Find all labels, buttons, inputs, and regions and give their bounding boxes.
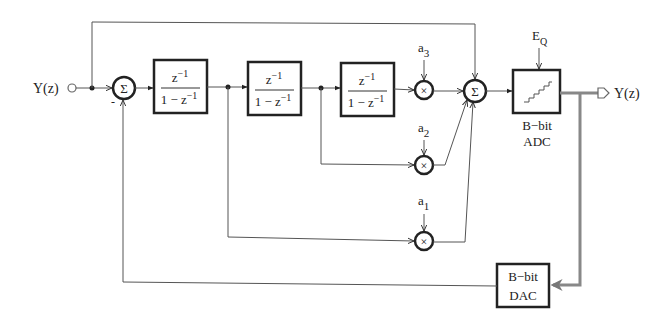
svg-text:DAC: DAC <box>509 288 536 303</box>
output-summing-node: Σ <box>464 80 486 102</box>
input-label: Y(z) <box>33 81 59 97</box>
svg-text:B−bit: B−bit <box>508 269 538 284</box>
coef-a3-label: a3 <box>418 40 430 59</box>
coef-a2-label: a2 <box>418 120 429 139</box>
coef-a1-label: a1 <box>418 193 429 212</box>
feedback-bus <box>553 93 580 285</box>
integrator-2: z−1 1 − z−1 <box>248 62 301 115</box>
quantization-error-label: EQ <box>532 28 548 47</box>
dac-feedback-wire <box>123 100 497 286</box>
output-label: Y(z) <box>614 86 640 102</box>
integrator-1: z−1 1 − z−1 <box>154 60 207 113</box>
input-terminal-icon <box>68 84 76 92</box>
svg-text:Σ: Σ <box>471 84 479 99</box>
output-terminal-icon <box>598 88 609 98</box>
adc-block <box>513 70 560 113</box>
svg-text:×: × <box>421 235 428 249</box>
input-summing-node: Σ <box>113 77 135 99</box>
multiplier-a2: × <box>415 156 433 174</box>
svg-text:Σ: Σ <box>120 81 128 96</box>
sigma-delta-diagram: Y(z) Σ - z−1 1 − z−1 z−1 1 − z−1 z−1 1 −… <box>0 0 666 326</box>
svg-text:×: × <box>421 84 428 98</box>
multiplier-a1: × <box>415 232 433 250</box>
svg-text:×: × <box>421 159 428 173</box>
dac-block: B−bit DAC <box>497 264 549 307</box>
integrator-3: z−1 1 − z−1 <box>341 63 394 116</box>
multiplier-a3: × <box>415 81 433 99</box>
adc-label-1: B−bit <box>522 118 552 133</box>
adc-label-2: ADC <box>523 134 550 149</box>
minus-sign: - <box>111 95 115 109</box>
